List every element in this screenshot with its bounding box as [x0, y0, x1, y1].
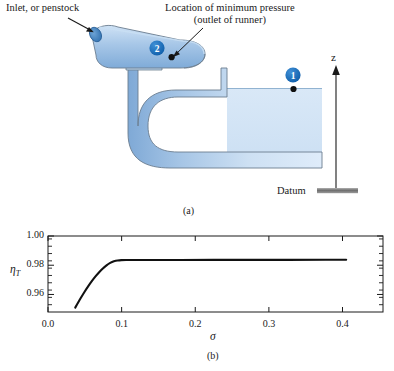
datum-label: Datum	[277, 185, 306, 197]
y-axis-label: ηT	[10, 263, 20, 279]
x-tick-label: 0.0	[38, 318, 58, 329]
datum-bar	[317, 188, 358, 193]
min-pressure-label-line1: Location of minimum pressure	[165, 2, 295, 13]
y-tick-label: 0.98	[18, 258, 44, 269]
x-tick-label: 0.1	[112, 318, 132, 329]
z-axis-arrow	[332, 65, 340, 191]
x-tick-label: 0.2	[185, 318, 205, 329]
x-tick-label: 0.3	[259, 318, 279, 329]
station-point-1-dot	[290, 86, 296, 92]
panel-a-schematic: 2 1	[0, 0, 394, 210]
z-axis-label: z	[331, 51, 336, 63]
station-marker-1-label: 1	[291, 71, 296, 81]
station-point-2-dot	[169, 54, 175, 60]
y-tick-label: 0.96	[18, 287, 44, 298]
penstock-pipe	[92, 25, 205, 68]
figure-container: 2 1 Inlet, or penstock Location of minim…	[0, 0, 394, 371]
y-tick-label: 1.00	[18, 229, 44, 240]
x-tick-label: 0.4	[333, 318, 353, 329]
x-axis-label: σ	[210, 330, 216, 343]
caption-panel-b: (b)	[207, 350, 219, 361]
min-pressure-label-line2: (outlet of runner)	[165, 14, 295, 26]
panel-b-chart	[0, 222, 394, 362]
min-pressure-label: Location of minimum pressure (outlet of …	[165, 2, 295, 26]
station-marker-2-label: 2	[155, 44, 160, 54]
caption-panel-a: (a)	[183, 205, 194, 216]
inlet-callout-arrow	[68, 18, 94, 32]
inlet-label: Inlet, or penstock	[6, 2, 79, 14]
